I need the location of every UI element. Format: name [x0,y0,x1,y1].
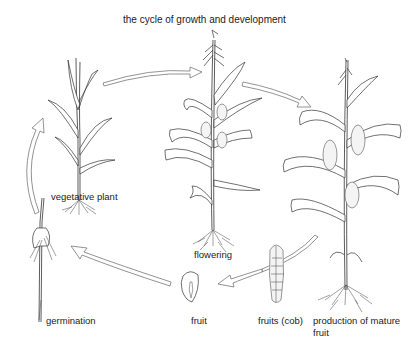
label-fruit: fruit [191,315,207,326]
label-germination: germination [46,315,96,326]
label-mature-line1: production of mature [313,315,400,326]
label-mature-line2: fruit [313,327,329,338]
corn-cob-illustration [269,245,284,303]
arrow-vegetative-to-flowering [103,67,202,86]
germination-illustration [30,198,56,322]
arrow-cob-to-fruit [218,269,262,287]
arrow-germination-to-vegetative [27,118,44,214]
flowering-plant-illustration [165,30,262,252]
mature-plant-illustration [283,58,401,312]
label-flowering: flowering [194,249,232,260]
arrow-flowering-to-mature [242,82,311,107]
arrow-fruit-to-germination [71,246,171,286]
growth-cycle-diagram [0,0,417,349]
kernel-illustration [181,272,198,302]
label-fruits-cob: fruits (cob) [258,315,303,326]
label-vegetative-plant: vegetative plant [51,191,118,202]
